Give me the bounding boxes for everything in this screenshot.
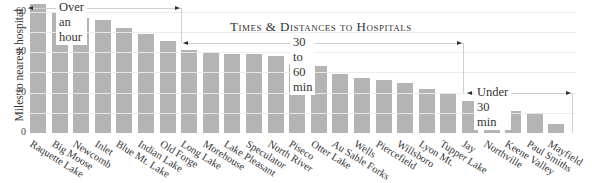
- gridline: [28, 12, 576, 13]
- bar: [224, 54, 240, 133]
- bracket-line: [28, 8, 181, 9]
- arrow-right-icon: [457, 41, 462, 45]
- arrow-right-icon: [175, 6, 180, 10]
- arrow-right-icon: [566, 91, 571, 95]
- gridline: [28, 32, 576, 33]
- bar: [527, 113, 543, 133]
- bar: [268, 56, 284, 133]
- bar-chart: Miles to nearest hospital 0204060 Raquet…: [0, 0, 592, 183]
- y-tick-label: 0: [8, 126, 26, 137]
- bar: [548, 124, 564, 133]
- bar: [376, 80, 392, 133]
- y-axis-label: Miles to nearest hospital: [13, 5, 27, 125]
- bar: [116, 28, 132, 133]
- bar: [160, 41, 176, 133]
- bracket-line: [181, 8, 182, 43]
- annotation-label: Over an hour: [56, 0, 87, 45]
- bar: [397, 83, 413, 134]
- arrow-left-icon: [467, 91, 472, 95]
- bar: [246, 54, 262, 133]
- bar: [95, 20, 111, 133]
- bar: [419, 89, 435, 133]
- y-tick-label: 40: [8, 45, 26, 56]
- y-tick-label: 20: [8, 86, 26, 97]
- arrow-left-icon: [183, 41, 188, 45]
- y-tick-label: 60: [8, 5, 26, 16]
- bracket-line: [183, 43, 463, 44]
- bracket-line: [463, 43, 464, 93]
- bar: [354, 78, 370, 133]
- arrow-left-icon: [28, 6, 33, 10]
- annotation-label: Under 30 min: [474, 85, 511, 130]
- bar: [138, 34, 154, 133]
- bar: [181, 50, 197, 133]
- bar: [332, 74, 348, 133]
- bracket-line: [572, 93, 573, 133]
- annotation-label: 30 to 60 min: [290, 35, 315, 95]
